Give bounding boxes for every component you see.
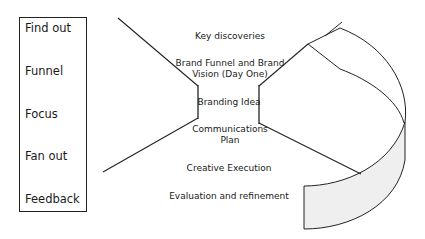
step-evaluation: Evaluation and refinement [169, 191, 289, 202]
loop-tail-stroke [325, 22, 342, 36]
step-creative-execution: Creative Execution [187, 163, 272, 174]
step-text: Evaluation and refinement [169, 191, 289, 201]
loop-top-stroke [308, 28, 340, 44]
funnel-lower-left [103, 118, 198, 172]
step-text: Plan [192, 135, 268, 146]
step-text: Vision (Day One) [176, 69, 285, 80]
step-branding-idea: Branding Idea [197, 97, 260, 108]
step-text: Branding Idea [197, 97, 260, 107]
step-text: Key discoveries [195, 31, 265, 41]
step-text: Creative Execution [187, 163, 272, 173]
step-text: Communications [192, 124, 268, 135]
step-key-discoveries: Key discoveries [195, 31, 265, 42]
feedback-band [304, 122, 405, 229]
step-communications-plan: Communications Plan [192, 124, 268, 146]
step-brand-funnel: Brand Funnel and Brand Vision (Day One) [176, 58, 285, 80]
funnel-lower-right [259, 123, 361, 174]
loop-outer-curve [340, 28, 406, 122]
step-text: Brand Funnel and Brand [176, 58, 285, 69]
loop-inner-curve [308, 44, 404, 123]
